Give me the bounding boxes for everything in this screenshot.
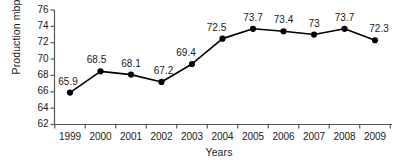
data-point-marker xyxy=(280,28,286,34)
y-axis-tick-label: 72 xyxy=(27,36,49,47)
x-axis-tick-label: 2003 xyxy=(181,131,203,142)
x-axis-title: Years xyxy=(54,146,384,158)
x-axis-tick-label: 2004 xyxy=(211,131,233,142)
y-axis-tick-label: 64 xyxy=(27,102,49,113)
y-axis-title: Production mbpd xyxy=(10,0,22,86)
y-axis-tick-label: 74 xyxy=(27,20,49,31)
data-point-marker xyxy=(128,72,134,78)
data-point-marker xyxy=(250,26,256,32)
data-point-marker xyxy=(219,36,225,42)
data-point-marker xyxy=(97,68,103,74)
x-axis-tick-label: 2008 xyxy=(333,131,355,142)
x-axis-tick-label: 2005 xyxy=(242,131,264,142)
data-point-label: 65.9 xyxy=(58,76,77,87)
y-axis-tick-label: 70 xyxy=(27,53,49,64)
data-point-label: 73.7 xyxy=(335,12,354,23)
data-point-label: 73 xyxy=(308,18,319,29)
x-axis-tick-label: 2000 xyxy=(89,131,111,142)
x-axis-tick-label: 2007 xyxy=(303,131,325,142)
y-axis-tick-label: 62 xyxy=(27,118,49,129)
data-point-label: 73.7 xyxy=(243,12,262,23)
data-point-marker xyxy=(311,31,317,37)
x-axis-tick-label: 2006 xyxy=(272,131,294,142)
data-point-label: 72.3 xyxy=(369,23,388,34)
data-point-label: 68.1 xyxy=(121,58,140,69)
x-axis-tick-label: 2001 xyxy=(120,131,142,142)
x-axis-tick-label: 2009 xyxy=(364,131,386,142)
line-chart: Production mbpd Years 6264666870727476 1… xyxy=(0,0,407,164)
data-point-marker xyxy=(158,79,164,85)
data-point-label: 73.4 xyxy=(274,14,293,25)
data-point-label: 69.4 xyxy=(176,47,195,58)
x-axis-tick-label: 1999 xyxy=(59,131,81,142)
y-axis-tick-label: 66 xyxy=(27,85,49,96)
data-point-label: 67.2 xyxy=(154,65,173,76)
data-point-marker xyxy=(67,90,73,96)
data-point-label: 68.5 xyxy=(87,54,106,65)
x-axis-tick-label: 2002 xyxy=(150,131,172,142)
y-axis-tick-label: 68 xyxy=(27,69,49,80)
y-axis-tick-label: 76 xyxy=(27,4,49,15)
data-point-marker xyxy=(372,37,378,43)
data-point-marker xyxy=(341,26,347,32)
series-markers xyxy=(67,26,378,96)
data-point-marker xyxy=(189,61,195,67)
data-point-label: 72.5 xyxy=(207,22,226,33)
